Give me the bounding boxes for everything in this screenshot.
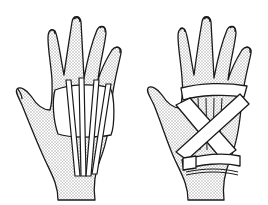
hands-illustration — [0, 0, 268, 205]
figure — [0, 0, 268, 205]
